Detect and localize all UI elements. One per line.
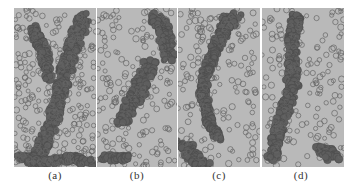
- caption-c: (c): [189, 169, 249, 181]
- caption-a: (a): [25, 169, 85, 181]
- panel-a-image: [14, 8, 96, 167]
- caption-d: (d): [271, 169, 331, 181]
- panel-c: [178, 8, 260, 167]
- panel-b-image: [97, 8, 177, 167]
- figure: (a) (b) (c) (d): [0, 0, 356, 190]
- panel-d-image: [262, 8, 344, 167]
- panel-d: [262, 8, 344, 167]
- panel-a: [14, 8, 96, 167]
- caption-b: (b): [107, 169, 167, 181]
- panel-b: [97, 8, 177, 167]
- panel-c-image: [178, 8, 260, 167]
